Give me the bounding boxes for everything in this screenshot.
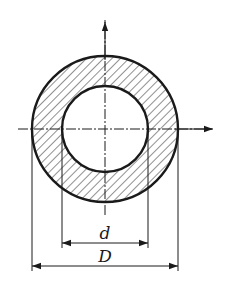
annulus-cross-section-diagram: d D: [0, 0, 225, 288]
inner-diameter-label: d: [100, 223, 111, 243]
outer-diameter-label: D: [97, 246, 112, 266]
